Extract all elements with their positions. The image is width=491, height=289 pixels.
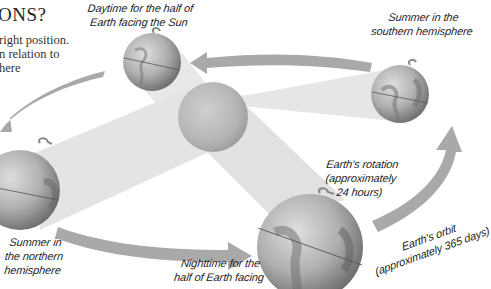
label-earth-rotation-line-1: Earth's rotation (326, 157, 400, 171)
label-summer-northern-line-3: hemisphere (3, 263, 63, 277)
label-summer-southern-line-1: Summer in the (372, 10, 475, 24)
label-nighttime-line-2: half of Earth facing (174, 270, 265, 284)
sun (178, 82, 248, 152)
globe-top (123, 28, 181, 91)
globe-right (371, 60, 429, 123)
label-summer-southern-line-2: southern hemisphere (371, 24, 474, 38)
body-text-line-2: n relation to (0, 47, 59, 62)
body-text-line-3: here (0, 61, 21, 76)
label-summer-northern-line-2: the northern (4, 249, 64, 263)
label-earth-rotation-line-2: (approximately (324, 171, 398, 185)
label-daytime-line-1: Daytime for the half of (87, 1, 194, 15)
label-summer-northern-line-1: Summer in (6, 235, 66, 249)
orbit-arrow-top (190, 52, 372, 74)
label-nighttime: Nighttime for the half of Earth facing (174, 256, 267, 284)
label-summer-southern: Summer in the southern hemisphere (371, 10, 475, 38)
page-heading: ONS? (0, 4, 46, 26)
label-daytime: Daytime for the half of Earth facing the… (86, 1, 194, 29)
body-text-line-1: right position. (0, 33, 69, 48)
label-summer-northern: Summer in the northern hemisphere (3, 235, 66, 277)
label-daytime-line-2: Earth facing the Sun (86, 15, 193, 29)
orbit-arrow-upper-left (0, 71, 105, 132)
label-earth-rotation: Earth's rotation (approximately 24 hours… (323, 157, 399, 199)
label-nighttime-line-1: Nighttime for the (175, 256, 266, 270)
label-earth-rotation-line-3: 24 hours) (323, 185, 397, 199)
